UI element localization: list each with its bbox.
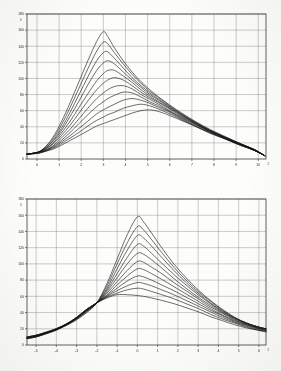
bottom-curves — [27, 216, 266, 338]
bottom-xtick-label: 2 — [177, 349, 179, 353]
bottom-xtick-label: -4 — [55, 349, 58, 353]
top-curves — [27, 32, 265, 156]
top-xtick-label: 3 — [102, 163, 104, 167]
bottom-xtick-label: 3 — [197, 349, 199, 353]
bottom-curve-2 — [27, 226, 266, 337]
bottom-ytick-label: 160 — [18, 214, 24, 218]
bottom-curve-10 — [27, 288, 266, 338]
top-ytick-label: 100 — [18, 77, 24, 81]
top-ytick-label: 0 — [22, 157, 24, 161]
top-curve-4 — [27, 61, 265, 156]
top-ytick-label: 60 — [20, 109, 24, 113]
bottom-xtick-label: 4 — [217, 349, 219, 353]
top-ytick-label: 80 — [20, 93, 24, 97]
top-xtick-label: 8 — [213, 163, 215, 167]
bottom-ticks — [25, 199, 259, 347]
bottom-ytick-label: 40 — [20, 311, 24, 315]
top-curve-7 — [27, 86, 265, 156]
top-curve-9 — [27, 99, 265, 156]
bottom-panel: -5-4-3-2-1012345602040608010012014016018… — [0, 185, 281, 371]
top-xtick-label: 5 — [147, 163, 149, 167]
bottom-x-axis-exponent: 2 — [268, 348, 270, 352]
bottom-xtick-label: -1 — [116, 349, 119, 353]
top-xtick-label: 4 — [125, 163, 127, 167]
figure-page: 01234567891002040608010012014016018020 -… — [0, 0, 281, 371]
bottom-curve-5 — [27, 253, 266, 338]
bottom-xtick-label: 1 — [157, 349, 159, 353]
top-ytick-label: 140 — [18, 45, 24, 49]
top-y-axis-exponent: 0 — [20, 18, 22, 22]
top-xtick-label: 7 — [191, 163, 193, 167]
bottom-ytick-label: 0 — [22, 343, 24, 347]
bottom-curve-9 — [27, 282, 266, 338]
top-xtick-label: 2 — [80, 163, 82, 167]
top-xtick-label: 9 — [235, 163, 237, 167]
bottom-ytick-label: 100 — [18, 262, 24, 266]
bottom-ytick-label: 140 — [18, 230, 24, 234]
bottom-xtick-label: 5 — [238, 349, 240, 353]
bottom-curve-8 — [27, 276, 266, 339]
bottom-xtick-label: -5 — [35, 349, 38, 353]
top-ytick-label: 160 — [18, 28, 24, 32]
top-ytick-label: 180 — [18, 12, 24, 16]
top-ytick-label: 20 — [20, 141, 24, 145]
top-x-axis-exponent: 2 — [268, 162, 270, 166]
top-curve-6 — [27, 78, 265, 156]
bottom-ytick-label: 20 — [20, 327, 24, 331]
bottom-xtick-label: -2 — [95, 349, 98, 353]
top-xtick-label: 1 — [58, 163, 60, 167]
bottom-ytick-label: 120 — [18, 246, 24, 250]
bottom-ytick-label: 80 — [20, 278, 24, 282]
top-chart-svg: 01234567891002040608010012014016018020 — [0, 0, 281, 185]
top-ytick-label: 40 — [20, 125, 24, 129]
top-ytick-label: 120 — [18, 61, 24, 65]
bottom-xtick-label: -3 — [75, 349, 78, 353]
bottom-ytick-label: 180 — [18, 197, 24, 201]
bottom-y-axis-exponent: 0 — [20, 203, 22, 207]
top-curve-11 — [27, 110, 265, 156]
bottom-xtick-label: 6 — [258, 349, 260, 353]
top-xtick-label: 0 — [36, 163, 38, 167]
top-panel: 01234567891002040608010012014016018020 — [0, 0, 281, 185]
bottom-chart-svg: -5-4-3-2-1012345602040608010012014016018… — [0, 185, 281, 371]
top-xtick-label: 6 — [169, 163, 171, 167]
top-xtick-label: 10 — [256, 163, 260, 167]
bottom-ytick-label: 60 — [20, 295, 24, 299]
bottom-xtick-label: 0 — [136, 349, 138, 353]
top-curve-10 — [27, 104, 265, 156]
